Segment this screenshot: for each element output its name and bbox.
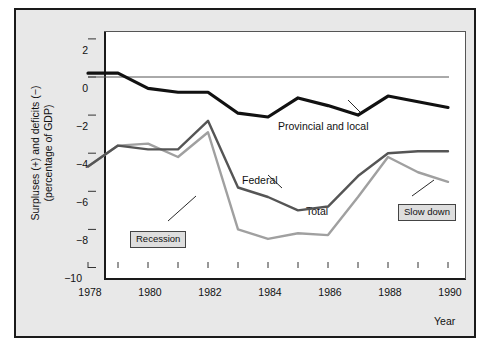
leader-line-slow-down — [412, 180, 434, 196]
series-line-federal — [88, 121, 448, 211]
chart-figure: Surpluses (+) and deficits (−) (percenta… — [0, 0, 492, 348]
leader-line-recession — [168, 196, 196, 221]
leader-line-federal — [268, 175, 282, 188]
data-series-group — [88, 73, 448, 239]
series-line-provincial-and-local — [88, 73, 448, 117]
chart-svg — [0, 0, 492, 348]
